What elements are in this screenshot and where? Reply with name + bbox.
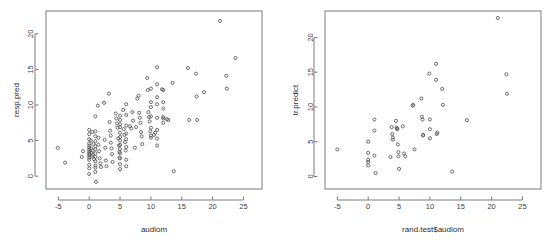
- data-point: [64, 161, 67, 164]
- data-point: [435, 62, 438, 65]
- data-point: [505, 73, 508, 76]
- data-point: [373, 154, 376, 157]
- data-point: [374, 171, 377, 174]
- data-point: [156, 137, 159, 140]
- data-point: [94, 166, 97, 169]
- y-axis-title-right: tr.predict: [291, 84, 300, 115]
- data-point: [390, 126, 393, 129]
- data-point: [367, 151, 370, 154]
- x-tick-label: 20: [208, 202, 216, 211]
- data-point: [125, 145, 128, 148]
- data-point: [441, 103, 444, 106]
- data-point: [147, 111, 150, 114]
- data-point: [156, 103, 159, 106]
- data-point: [149, 130, 152, 133]
- y-tick-label: 10: [27, 101, 36, 109]
- data-point: [104, 159, 107, 162]
- data-point: [156, 66, 159, 69]
- data-point: [140, 135, 143, 138]
- data-point: [138, 116, 141, 119]
- data-point: [81, 150, 84, 153]
- data-point: [119, 114, 122, 117]
- data-point: [109, 134, 112, 137]
- data-point: [367, 164, 370, 167]
- data-point: [156, 96, 159, 99]
- data-point: [97, 143, 100, 146]
- data-point: [156, 144, 159, 147]
- data-point: [139, 130, 142, 133]
- data-point: [225, 87, 228, 90]
- data-point: [162, 107, 165, 110]
- x-tick-label: 15: [457, 202, 465, 211]
- data-point: [373, 118, 376, 121]
- data-point: [162, 101, 165, 104]
- data-point: [88, 163, 91, 166]
- data-point: [88, 158, 91, 161]
- data-point: [119, 163, 122, 166]
- data-point: [98, 150, 101, 153]
- data-point: [435, 78, 438, 81]
- data-point: [428, 118, 431, 121]
- y-tick-label: 10: [306, 103, 315, 111]
- data-point: [451, 170, 454, 173]
- data-point: [394, 119, 397, 122]
- x-tick-label: 10: [426, 202, 434, 211]
- data-point: [137, 94, 140, 97]
- data-point: [125, 124, 128, 127]
- data-point: [56, 146, 59, 149]
- data-point: [172, 170, 175, 173]
- data-point: [148, 120, 151, 123]
- data-point: [119, 139, 122, 142]
- data-point: [156, 116, 159, 119]
- y-tick-label: 0: [306, 174, 315, 178]
- x-tick-label: -5: [55, 202, 62, 211]
- data-point: [195, 95, 198, 98]
- data-point: [133, 146, 136, 149]
- data-point: [119, 131, 122, 134]
- data-point: [188, 118, 191, 121]
- x-tick-label: 0: [87, 202, 91, 211]
- x-tick-label: -5: [334, 202, 341, 211]
- data-point: [401, 125, 404, 128]
- data-point: [91, 130, 94, 133]
- data-point: [94, 135, 97, 138]
- data-point: [122, 108, 125, 111]
- data-point: [135, 126, 138, 129]
- data-point: [108, 121, 111, 124]
- data-point: [398, 167, 401, 170]
- data-point: [109, 129, 112, 132]
- data-point: [194, 72, 197, 75]
- y-tick-label: 5: [27, 138, 36, 142]
- figure-root: -5051015202505101520audiomresp.pred -505…: [0, 0, 558, 247]
- x-tick-label: 25: [518, 202, 526, 211]
- data-point: [496, 16, 499, 19]
- data-point: [506, 92, 509, 95]
- data-point: [162, 121, 165, 124]
- data-point: [391, 133, 394, 136]
- data-point: [99, 165, 102, 168]
- data-point: [80, 155, 83, 158]
- y-tick-label: 5: [306, 140, 315, 144]
- data-point: [149, 106, 152, 109]
- y-tick-label: 15: [27, 65, 36, 73]
- x-tick-label: 10: [147, 202, 155, 211]
- data-point: [115, 117, 118, 120]
- data-point: [124, 149, 127, 152]
- data-point: [94, 180, 97, 183]
- data-point: [98, 157, 101, 160]
- scatter-plot-left: -5051015202505101520audiomresp.pred: [0, 0, 279, 247]
- data-point: [125, 158, 128, 161]
- data-point: [146, 88, 149, 91]
- data-point: [413, 148, 416, 151]
- x-tick-label: 25: [239, 202, 247, 211]
- scatter-plot-right: -5051015202505101520rand.test$audiomtr.p…: [279, 0, 558, 247]
- data-point: [428, 72, 431, 75]
- data-point: [389, 155, 392, 158]
- data-point: [97, 136, 100, 139]
- scatter-panel-right: -5051015202505101520rand.test$audiomtr.p…: [279, 0, 558, 247]
- data-point: [367, 160, 370, 163]
- y-tick-label: 20: [306, 33, 315, 41]
- x-axis-title-right: rand.test$audiom: [402, 225, 464, 234]
- data-point: [131, 119, 134, 122]
- data-point: [114, 112, 117, 115]
